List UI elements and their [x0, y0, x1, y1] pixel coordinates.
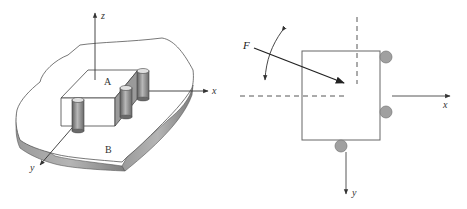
- region-label-B: B: [105, 144, 112, 155]
- x-axis-label: x: [211, 85, 217, 96]
- pin-back-right: [137, 69, 149, 102]
- z-axis-label: z: [100, 10, 105, 21]
- left-figure-3d-assembly: z x y A B: [16, 10, 217, 173]
- region-label-A: A: [104, 76, 112, 87]
- diagram-canvas: z x y A B F x y: [0, 0, 467, 209]
- x-axis-label-right: x: [442, 99, 448, 110]
- rigid-body-square: [302, 51, 380, 140]
- right-figure-planar-body: F x y: [240, 17, 450, 198]
- pin-center: [120, 86, 132, 120]
- pin-front-left: [72, 98, 84, 134]
- y-axis-label-right: y: [351, 187, 357, 198]
- block-A-front: [61, 98, 115, 126]
- roller-bottom: [335, 140, 347, 152]
- force-label-F: F: [242, 39, 250, 51]
- y-axis-label: y: [29, 162, 35, 173]
- roller-right-bottom: [380, 106, 392, 118]
- force-arrow-F: [254, 48, 344, 83]
- roller-right-top: [380, 51, 392, 63]
